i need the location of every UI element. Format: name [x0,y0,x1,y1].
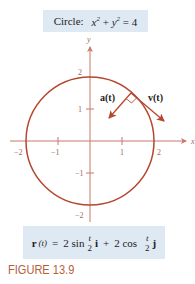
fraction: t 2 [145,233,150,253]
velocity-label: v(t) [148,92,163,104]
tick-label-x-neg2: −2 [14,148,23,157]
fraction: t 2 [87,233,92,253]
x-axis-label: x [190,137,195,146]
tick-label-x-2: 2 [157,148,161,157]
figure-label: FIGURE 13.9 [8,262,74,277]
tick-label-y-2: 2 [78,68,82,77]
acceleration-label: a(t) [100,92,115,104]
formula-box: r (t) = 2 sin t 2 i + 2 cos t 2 j [23,226,165,259]
tick-label-y-neg2: −2 [75,211,84,220]
right-angle-icon [126,98,137,104]
y-axis-label: y [86,35,91,44]
tick-label-y-1: 1 [78,105,82,114]
tick-label-x-1: 1 [120,148,124,157]
tick-label-y-neg1: −1 [75,169,84,178]
tick-label-x-neg1: −1 [51,148,60,157]
